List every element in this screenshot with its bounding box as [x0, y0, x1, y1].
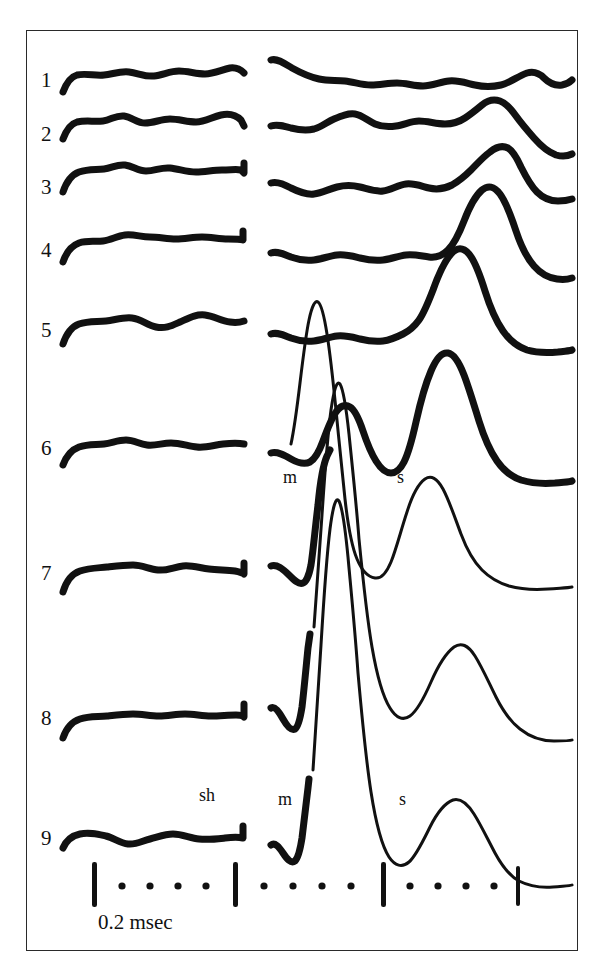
row-label-3: 3 — [41, 177, 52, 198]
time-scale-caption: 0.2 msec — [98, 912, 173, 933]
m-wave-label-upper: m — [283, 468, 297, 486]
row-label-2: 2 — [41, 124, 52, 145]
row-label-9: 9 — [41, 828, 52, 849]
s-wave-label-lower: s — [399, 790, 406, 808]
row-label-8: 8 — [41, 708, 52, 729]
figure-root: 1 2 3 4 5 6 7 8 9 sh m s m s 0.2 msec — [0, 0, 592, 973]
row-label-7: 7 — [41, 563, 52, 584]
shock-artifact-label: sh — [199, 786, 215, 804]
plot-frame-border — [26, 30, 578, 951]
row-label-1: 1 — [41, 70, 52, 91]
row-label-5: 5 — [41, 320, 52, 341]
row-label-6: 6 — [41, 438, 52, 459]
row-label-4: 4 — [41, 240, 52, 261]
s-wave-label-upper: s — [397, 468, 404, 486]
m-wave-label-lower: m — [278, 790, 292, 808]
